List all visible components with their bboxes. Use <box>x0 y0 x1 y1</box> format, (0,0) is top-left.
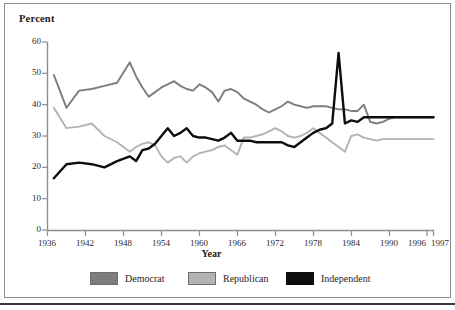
legend-swatch-democrat <box>90 272 118 285</box>
plot-area <box>0 0 455 310</box>
x-tick-label-1966: 1966 <box>220 238 254 248</box>
y-tick-label-50: 50 <box>19 67 41 77</box>
legend-item-republican[interactable]: Republican <box>188 268 269 288</box>
x-tick-label-1997: 1997 <box>423 238 455 248</box>
x-axis-title: Year <box>0 248 455 259</box>
y-tick-label-10: 10 <box>19 193 41 203</box>
x-tick-marks <box>48 231 434 237</box>
legend-swatch-republican <box>188 272 216 285</box>
y-tick-label-60: 60 <box>19 36 41 46</box>
x-tick-label-1948: 1948 <box>106 238 140 248</box>
y-tick-label-30: 30 <box>19 130 41 140</box>
legend-label-democrat: Democrat <box>125 273 164 284</box>
x-tick-label-1936: 1936 <box>30 238 64 248</box>
legend-item-independent[interactable]: Independent <box>286 268 370 288</box>
y-tick-label-40: 40 <box>19 99 41 109</box>
chart-figure: Percent <box>0 0 455 310</box>
x-tick-label-1984: 1984 <box>334 238 368 248</box>
line-series-democrat <box>54 62 434 123</box>
legend-item-democrat[interactable]: Democrat <box>90 268 164 288</box>
x-tick-label-1978: 1978 <box>296 238 330 248</box>
x-tick-label-1954: 1954 <box>144 238 178 248</box>
y-tick-label-0: 0 <box>19 224 41 234</box>
x-axis-title-text: Year <box>202 248 222 259</box>
y-tick-label-20: 20 <box>19 161 41 171</box>
legend-label-republican: Republican <box>223 273 269 284</box>
x-tick-label-1972: 1972 <box>258 238 292 248</box>
line-series-independent <box>54 53 434 178</box>
x-tick-label-1942: 1942 <box>68 238 102 248</box>
x-tick-label-1960: 1960 <box>182 238 216 248</box>
legend-label-independent: Independent <box>321 273 370 284</box>
legend-swatch-independent <box>286 272 314 285</box>
y-tick-marks <box>42 42 48 230</box>
chart-legend: Democrat Republican Independent <box>0 268 455 290</box>
